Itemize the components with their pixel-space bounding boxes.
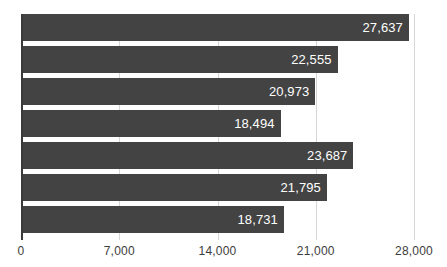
bar-value-label: 27,637	[21, 14, 409, 41]
bar-row: 21,795	[21, 174, 414, 201]
bar-row: 22,555	[21, 46, 414, 73]
x-axis-tick-labels: 07,00014,00021,00028,000	[0, 244, 447, 264]
x-tick-label: 21,000	[297, 244, 335, 258]
bar-chart: 27,63722,55520,97318,49423,68721,79518,7…	[0, 0, 447, 267]
bar-value-label: 18,494	[21, 110, 281, 137]
x-tick-label: 7,000	[104, 244, 135, 258]
bar-row: 23,687	[21, 142, 414, 169]
x-tick-label: 14,000	[199, 244, 237, 258]
bar-row: 18,494	[21, 110, 414, 137]
bar-row: 27,637	[21, 14, 414, 41]
gridline-28000	[414, 14, 415, 240]
bar-row: 20,973	[21, 78, 414, 105]
bar-value-label: 22,555	[21, 46, 338, 73]
bar-row: 18,731	[21, 206, 414, 233]
bar-value-label: 18,731	[21, 206, 284, 233]
y-axis-line	[21, 14, 23, 240]
bar-value-label: 20,973	[21, 78, 315, 105]
x-tick-label: 28,000	[395, 244, 433, 258]
bar-value-label: 23,687	[21, 142, 353, 169]
bar-value-label: 21,795	[21, 174, 327, 201]
x-tick-label: 0	[18, 244, 25, 258]
plot-area: 27,63722,55520,97318,49423,68721,79518,7…	[21, 14, 414, 240]
